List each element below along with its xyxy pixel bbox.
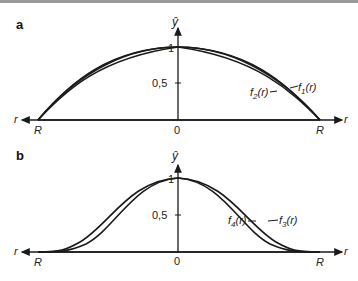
tick-label-one-a: 1 bbox=[168, 42, 174, 54]
tick-label-half-a: 0,5 bbox=[152, 77, 167, 89]
panel-b: b ŷ 1 0,5 0 R R r r f4(r) f3(r) bbox=[14, 148, 349, 268]
r-left-label-b: R bbox=[34, 256, 42, 268]
leader-f3 bbox=[268, 220, 278, 221]
y-axis-label-b: ŷ bbox=[171, 149, 179, 163]
leader-f2 bbox=[270, 91, 277, 92]
r-right-label-b: R bbox=[316, 256, 324, 268]
label-f3: f3(r) bbox=[279, 214, 298, 229]
label-f2: f2(r) bbox=[250, 86, 269, 101]
figure: a ŷ 1 0,5 0 R R r r f2(r) f1(r) b bbox=[0, 0, 358, 281]
panel-label-a: a bbox=[16, 17, 24, 32]
x-axis-label-right-b: r bbox=[344, 245, 349, 257]
tick-label-one-b: 1 bbox=[168, 173, 174, 185]
label-f1: f1(r) bbox=[298, 81, 317, 96]
leader-f1 bbox=[290, 86, 298, 88]
origin-label-a: 0 bbox=[174, 124, 180, 136]
panel-label-b: b bbox=[16, 148, 24, 163]
r-left-label-a: R bbox=[34, 124, 42, 136]
x-axis-label-right-a: r bbox=[344, 113, 349, 125]
panel-a: a ŷ 1 0,5 0 R R r r f2(r) f1(r) bbox=[14, 15, 349, 136]
r-right-label-a: R bbox=[316, 124, 324, 136]
x-axis-label-left-a: r bbox=[14, 113, 19, 125]
tick-label-half-b: 0,5 bbox=[152, 209, 167, 221]
label-f4: f4(r) bbox=[228, 214, 247, 229]
y-axis-label-a: ŷ bbox=[171, 15, 179, 29]
origin-label-b: 0 bbox=[174, 255, 180, 267]
x-axis-label-left-b: r bbox=[14, 245, 19, 257]
